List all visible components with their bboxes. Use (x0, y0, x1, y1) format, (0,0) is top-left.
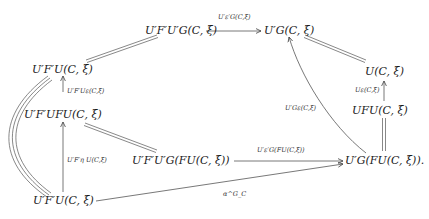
node-center: U′F′U′G(FU(C, ξ)) (132, 155, 230, 166)
node-right-upper: U(C, ξ) (365, 66, 404, 77)
label-top-arrow: U′ε′G(C,ξ) (218, 14, 251, 21)
node-top-right: U′G(C, ξ) (264, 25, 314, 36)
label-left-lower-arrow: U′F′η U(C,ξ) (67, 157, 107, 164)
equality-right (383, 118, 386, 151)
label-center-arrow: U′ε′G(FU(C,ξ)) (257, 147, 305, 154)
node-bottom-right: U′G(FU(C, ξ)). (345, 155, 424, 166)
label-right-arrow: Uε(C,ξ) (355, 87, 379, 94)
equality-middle (84, 123, 157, 153)
node-left-upper: U′F′U(C, ξ) (32, 64, 93, 75)
equality-curve-left (9, 76, 52, 197)
label-curve-arrow: U′Gε(C,ξ) (285, 105, 316, 112)
arrow-bottom (96, 164, 343, 201)
label-left-upper-arrow: U′F′Uε(C,ξ) (67, 88, 104, 95)
node-bottom-left: U′F′U(C, ξ) (33, 195, 94, 206)
node-right-middle: UFU(C, ξ) (352, 105, 408, 116)
node-left-middle: U′F′UFU(C, ξ) (24, 109, 102, 120)
label-bottom-arrow: α^G_C (223, 191, 246, 198)
equality-top-left (86, 35, 158, 63)
arrow-curve-right (289, 37, 366, 153)
equality-top-right (304, 35, 366, 63)
node-top-left: U′F′U′G(C, ξ) (145, 25, 217, 36)
